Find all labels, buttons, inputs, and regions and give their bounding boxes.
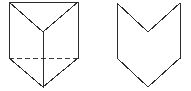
geometry-figure-canvas xyxy=(0,0,191,91)
